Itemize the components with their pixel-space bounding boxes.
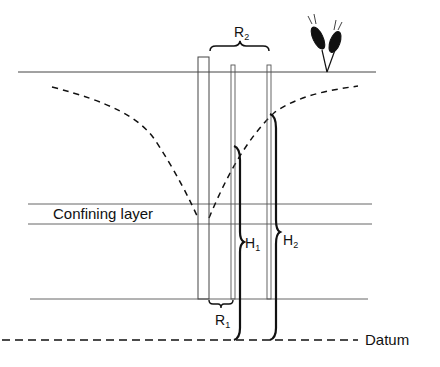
drawdown-cone-curve (52, 87, 198, 218)
r1-brace (209, 300, 233, 308)
h2-label: H2 (283, 232, 298, 250)
datum-label: Datum (365, 331, 409, 348)
h1-brace (234, 146, 244, 340)
wheat-plant-icon (308, 14, 343, 72)
piezometer-2 (267, 65, 271, 299)
well-drawdown-diagram: R2 R1 H1 H2 Confining layer Datum (0, 0, 440, 367)
r2-label: R2 (234, 24, 249, 42)
r1-label: R1 (215, 312, 230, 330)
confining-layer-label: Confining layer (53, 205, 153, 222)
r2-brace (210, 41, 269, 51)
piezometer-1 (231, 65, 235, 299)
h2-brace (270, 114, 280, 340)
pumping-well (198, 57, 209, 299)
h1-label: H1 (245, 235, 260, 253)
